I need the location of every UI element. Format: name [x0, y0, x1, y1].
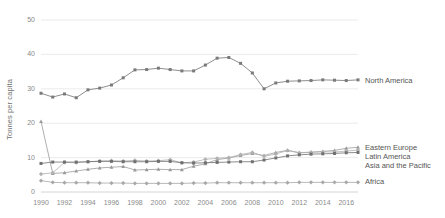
data-point-marker — [39, 179, 43, 183]
data-point-marker — [332, 180, 336, 184]
data-point-marker — [286, 80, 289, 83]
data-point-marker — [216, 57, 219, 60]
y-tick-label-20: 20 — [13, 119, 35, 126]
data-point-marker — [145, 68, 148, 71]
data-point-marker — [285, 181, 289, 185]
x-tick-label-1992: 1992 — [51, 199, 77, 206]
x-tick-label-2008: 2008 — [239, 199, 265, 206]
data-point-marker — [321, 180, 325, 184]
data-point-marker — [309, 180, 313, 184]
data-point-marker — [345, 151, 348, 154]
data-point-marker — [239, 62, 242, 65]
data-point-marker — [133, 68, 136, 71]
data-point-marker — [344, 180, 348, 184]
series-line — [41, 121, 358, 173]
data-point-marker — [262, 181, 266, 185]
data-point-marker — [227, 161, 230, 164]
data-point-marker — [121, 181, 125, 185]
data-point-marker — [145, 181, 149, 185]
data-point-marker — [192, 69, 195, 72]
data-point-marker — [251, 71, 254, 74]
data-point-marker — [274, 156, 277, 159]
x-tick-label-1998: 1998 — [122, 199, 148, 206]
y-tick-label-10: 10 — [13, 154, 35, 161]
data-point-marker — [251, 160, 254, 163]
series-label-africa: Africa — [365, 177, 384, 187]
data-point-marker — [274, 81, 277, 84]
data-point-marker — [180, 181, 184, 185]
data-point-marker — [169, 160, 172, 163]
data-point-marker — [133, 181, 137, 185]
data-point-marker — [356, 180, 360, 184]
data-point-marker — [156, 181, 160, 185]
data-point-marker — [215, 181, 219, 185]
data-point-marker — [75, 161, 78, 164]
data-point-marker — [145, 160, 148, 163]
data-point-marker — [98, 87, 101, 90]
data-point-marker — [39, 120, 43, 123]
y-tick-label-30: 30 — [13, 85, 35, 92]
data-point-marker — [169, 68, 172, 71]
data-point-marker — [86, 88, 89, 91]
data-point-marker — [263, 159, 266, 162]
emissions-per-capita-line-chart: Tonnes per capita 01020304050 1990199219… — [0, 0, 445, 218]
data-point-marker — [109, 181, 113, 185]
series-line — [41, 58, 358, 98]
data-point-marker — [75, 96, 78, 99]
x-tick-label-1996: 1996 — [98, 199, 124, 206]
gridlines — [41, 20, 358, 192]
x-tick-label-2000: 2000 — [145, 199, 171, 206]
y-tick-label-50: 50 — [13, 16, 35, 23]
data-point-marker — [345, 79, 348, 82]
data-point-marker — [86, 181, 90, 185]
data-point-marker — [263, 87, 266, 90]
data-point-marker — [122, 76, 125, 79]
data-point-marker — [180, 69, 183, 72]
data-point-marker — [298, 79, 301, 82]
series-eastern-europe — [39, 120, 360, 175]
y-tick-label-0: 0 — [13, 188, 35, 195]
y-tick-label-40: 40 — [13, 50, 35, 57]
data-point-marker — [122, 160, 125, 163]
data-point-marker — [204, 64, 207, 67]
data-point-marker — [98, 181, 102, 185]
data-point-marker — [74, 181, 78, 185]
series-africa — [39, 179, 360, 186]
data-point-marker — [168, 181, 172, 185]
data-point-marker — [297, 180, 301, 184]
x-tick-label-2002: 2002 — [169, 199, 195, 206]
data-point-marker — [216, 161, 219, 164]
x-tick-label-2014: 2014 — [310, 199, 336, 206]
series-label-north-america: North America — [365, 76, 413, 86]
data-point-marker — [274, 181, 278, 185]
data-point-marker — [321, 152, 324, 155]
data-point-marker — [357, 78, 360, 81]
data-point-marker — [86, 160, 89, 163]
data-point-marker — [238, 181, 242, 185]
data-point-marker — [227, 56, 230, 59]
data-point-marker — [192, 181, 196, 185]
data-point-marker — [133, 160, 136, 163]
data-point-marker — [321, 78, 324, 81]
data-point-marker — [227, 181, 231, 185]
x-tick-label-2004: 2004 — [192, 199, 218, 206]
data-point-marker — [180, 161, 183, 164]
data-point-marker — [310, 79, 313, 82]
data-point-marker — [357, 151, 360, 154]
data-point-marker — [157, 160, 160, 163]
data-point-marker — [51, 161, 54, 164]
data-point-marker — [110, 84, 113, 87]
x-tick-label-2016: 2016 — [333, 199, 359, 206]
data-point-marker — [63, 161, 66, 164]
data-point-marker — [204, 161, 207, 164]
x-tick-label-2006: 2006 — [216, 199, 242, 206]
data-point-marker — [192, 162, 195, 165]
data-point-marker — [51, 96, 54, 99]
data-point-marker — [110, 160, 113, 163]
x-tick-label-1994: 1994 — [75, 199, 101, 206]
data-point-marker — [239, 160, 242, 163]
data-point-marker — [250, 181, 254, 185]
data-point-marker — [40, 162, 43, 165]
data-point-marker — [203, 181, 207, 185]
data-point-marker — [333, 152, 336, 155]
